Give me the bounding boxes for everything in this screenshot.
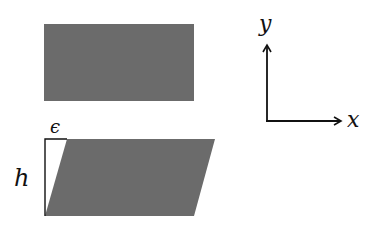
- x-axis-label: x: [347, 107, 360, 132]
- original-rectangle: [44, 24, 194, 101]
- sheared-parallelogram: [45, 139, 215, 216]
- height-label: h: [14, 164, 29, 192]
- axes-icon: y x: [258, 11, 360, 132]
- shear-diagram: ϵ h y x: [0, 0, 384, 225]
- epsilon-label: ϵ: [50, 116, 60, 137]
- y-axis-label: y: [258, 11, 272, 36]
